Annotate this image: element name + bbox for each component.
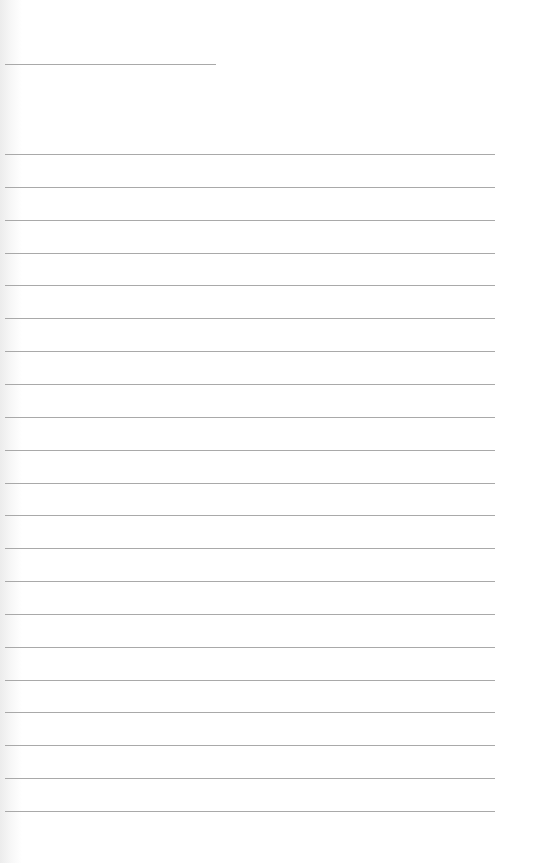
ruled-line — [5, 220, 495, 221]
ruled-line — [5, 253, 495, 254]
ruled-lines-area — [0, 0, 535, 863]
ruled-line — [5, 318, 495, 319]
ruled-line — [5, 154, 495, 155]
ruled-line — [5, 581, 495, 582]
ruled-line — [5, 417, 495, 418]
ruled-line — [5, 712, 495, 713]
ruled-line — [5, 450, 495, 451]
ruled-line — [5, 745, 495, 746]
ruled-line — [5, 483, 495, 484]
ruled-line — [5, 285, 495, 286]
ruled-line — [5, 548, 495, 549]
ruled-line — [5, 515, 495, 516]
ruled-line — [5, 647, 495, 648]
ruled-line — [5, 614, 495, 615]
ruled-line — [5, 351, 495, 352]
ruled-line — [5, 187, 495, 188]
ruled-line — [5, 778, 495, 779]
ruled-line — [5, 680, 495, 681]
ruled-line — [5, 811, 495, 812]
ruled-line — [5, 384, 495, 385]
